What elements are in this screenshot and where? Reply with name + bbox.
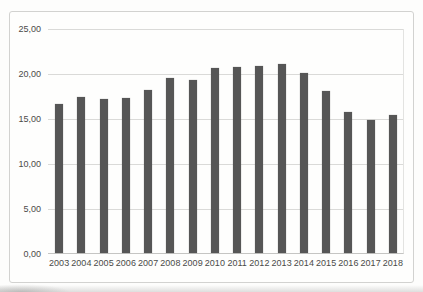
bar-2011: [233, 67, 241, 253]
x-tick-label-2006: 2006: [116, 259, 136, 268]
page-background: 0,005,0010,0015,0020,0025,00 20032004200…: [0, 0, 423, 292]
x-tick-label-2007: 2007: [138, 259, 158, 268]
x-tick-label-2013: 2013: [272, 259, 292, 268]
bar-2007: [144, 90, 152, 253]
bar-2006: [122, 98, 130, 253]
x-tick-label-2004: 2004: [71, 259, 91, 268]
gridline-20: [48, 74, 403, 75]
x-tick-label-2015: 2015: [316, 259, 336, 268]
x-tick-label-2018: 2018: [383, 259, 403, 268]
x-tick-label-2008: 2008: [160, 259, 180, 268]
bar-2018: [389, 115, 397, 253]
bar-2015: [322, 91, 330, 253]
gridline-25: [48, 29, 403, 30]
bar-2008: [166, 78, 174, 254]
bar-2005: [100, 99, 108, 253]
y-tick-label-0: 0,00: [10, 250, 41, 259]
bar-2017: [367, 120, 375, 253]
bar-2010: [211, 68, 219, 253]
x-tick-label-2016: 2016: [338, 259, 358, 268]
x-tick-label-2009: 2009: [183, 259, 203, 268]
scan-edge-shadow: [0, 285, 423, 292]
x-tick-label-2011: 2011: [227, 259, 246, 268]
x-axis: 2003200420052006200720082009201020112012…: [48, 255, 404, 271]
bar-chart: 0,005,0010,0015,0020,0025,00 20032004200…: [9, 11, 414, 283]
x-tick-label-2012: 2012: [249, 259, 269, 268]
bar-2012: [255, 66, 263, 253]
y-tick-label-5: 5,00: [10, 205, 41, 214]
plot-area: [48, 29, 404, 254]
y-tick-label-25: 25,00: [10, 25, 41, 34]
x-tick-label-2017: 2017: [361, 259, 381, 268]
x-tick-label-2003: 2003: [49, 259, 69, 268]
x-tick-label-2010: 2010: [205, 259, 225, 268]
bar-2003: [55, 104, 63, 253]
y-tick-label-15: 15,00: [10, 115, 41, 124]
y-axis: 0,005,0010,0015,0020,0025,00: [10, 29, 44, 254]
scan-smudge-artifact: [0, 284, 70, 292]
y-tick-label-20: 20,00: [10, 70, 41, 79]
bar-2014: [300, 73, 308, 253]
x-tick-label-2005: 2005: [94, 259, 114, 268]
bar-2009: [189, 80, 197, 253]
bar-2013: [278, 64, 286, 253]
x-tick-label-2014: 2014: [294, 259, 314, 268]
bar-2016: [344, 112, 352, 253]
y-tick-label-10: 10,00: [10, 160, 41, 169]
bar-2004: [77, 97, 85, 253]
